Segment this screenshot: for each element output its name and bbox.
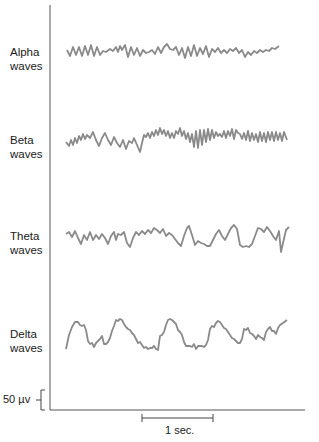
wave-traces: [66, 44, 289, 350]
voltage-scale-bar: [36, 390, 45, 410]
alpha-label: Alpha waves: [10, 45, 43, 73]
voltage-scale-label: 50 µv: [3, 393, 30, 405]
alpha-label-line2: waves: [10, 59, 43, 73]
beta-waves-trace: [66, 128, 287, 152]
beta-label-line1: Beta: [10, 133, 43, 147]
theta-label: Theta waves: [10, 229, 43, 257]
delta-label-line2: waves: [10, 341, 43, 355]
theta-label-line1: Theta: [10, 229, 43, 243]
delta-waves-trace: [66, 319, 287, 350]
theta-waves-trace: [66, 225, 289, 252]
theta-label-line2: waves: [10, 243, 43, 257]
eeg-chart: [0, 0, 319, 442]
delta-label: Delta waves: [10, 327, 43, 355]
delta-label-line1: Delta: [10, 327, 43, 341]
alpha-label-line1: Alpha: [10, 45, 43, 59]
time-scale-bar: [142, 414, 213, 422]
alpha-waves-trace: [67, 44, 279, 58]
beta-label: Beta waves: [10, 133, 43, 161]
beta-label-line2: waves: [10, 147, 43, 161]
time-scale-label: 1 sec.: [165, 424, 194, 436]
